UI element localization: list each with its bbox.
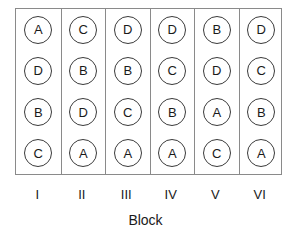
treatment-circle: A: [114, 139, 142, 167]
treatment-circle: A: [203, 98, 231, 126]
plot-cell: C: [16, 133, 61, 174]
plot-cell: D: [106, 9, 151, 50]
block-tick-label-v: V: [193, 186, 238, 204]
plot-cell: D: [16, 50, 61, 91]
block-column-iv: D C B A: [150, 9, 195, 174]
plot-cell: B: [195, 9, 240, 50]
treatment-circle: C: [24, 139, 52, 167]
block-tick-label-ii: II: [60, 186, 105, 204]
treatment-circle: C: [158, 57, 186, 85]
plot-cell: A: [16, 9, 61, 50]
treatment-circle: B: [203, 16, 231, 44]
treatment-circle: C: [203, 139, 231, 167]
plot-frame: A D B C C B D A: [15, 8, 282, 175]
block-column-ii: C B D A: [61, 9, 106, 174]
treatment-circle: D: [24, 57, 52, 85]
plot-cell: A: [106, 133, 151, 174]
x-axis-title: Block: [0, 211, 291, 229]
plot-cell: D: [150, 9, 195, 50]
treatment-circle: B: [114, 57, 142, 85]
plot-cell: D: [61, 92, 106, 133]
plot-cell: B: [16, 92, 61, 133]
plot-cell: B: [106, 50, 151, 91]
treatment-circle: B: [247, 98, 275, 126]
block-tick-label-i: I: [15, 186, 60, 204]
plot-cell: C: [195, 133, 240, 174]
plot-cell: C: [61, 9, 106, 50]
treatment-circle: B: [69, 57, 97, 85]
treatment-circle: C: [114, 98, 142, 126]
treatment-circle: A: [247, 139, 275, 167]
block-tick-labels: I II III IV V VI: [15, 186, 282, 204]
randomized-block-design-diagram: A D B C C B D A: [0, 0, 291, 241]
treatment-circle: D: [158, 16, 186, 44]
plot-cell: D: [239, 9, 284, 50]
treatment-circle: D: [69, 98, 97, 126]
block-tick-label-iv: IV: [149, 186, 194, 204]
block-column-i: A D B C: [16, 9, 61, 174]
treatment-circle: A: [69, 139, 97, 167]
plot-cell: B: [61, 50, 106, 91]
block-column-iii: D B C A: [105, 9, 150, 174]
plot-cell: D: [195, 50, 240, 91]
treatment-circle: A: [24, 16, 52, 44]
treatment-circle: D: [247, 16, 275, 44]
plot-cell: A: [61, 133, 106, 174]
block-tick-label-iii: III: [104, 186, 149, 204]
plot-cell: C: [106, 92, 151, 133]
plot-cell: A: [195, 92, 240, 133]
plot-cell: B: [239, 92, 284, 133]
treatment-circle: B: [24, 98, 52, 126]
block-tick-label-vi: VI: [238, 186, 283, 204]
block-column-vi: D C B A: [239, 9, 284, 174]
plot-cell: B: [150, 92, 195, 133]
plot-cell: A: [239, 133, 284, 174]
plot-cell: A: [150, 133, 195, 174]
treatment-circle: D: [203, 57, 231, 85]
plot-cell: C: [150, 50, 195, 91]
treatment-circle: A: [158, 139, 186, 167]
plot-cell: C: [239, 50, 284, 91]
treatment-circle: D: [114, 16, 142, 44]
treatment-circle: C: [247, 57, 275, 85]
treatment-circle: B: [158, 98, 186, 126]
block-column-v: B D A C: [194, 9, 239, 174]
treatment-circle: C: [69, 16, 97, 44]
